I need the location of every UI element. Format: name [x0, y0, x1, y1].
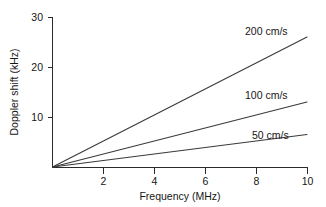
y-tick-label-20: 20: [31, 61, 43, 73]
series-label-200-cm-s: 200 cm/s: [245, 25, 288, 37]
chart-canvas: 30 20 10 2 4 6 8 10 Frequency (MHz) Dopp…: [0, 0, 326, 207]
series-label-100-cm-s: 100 cm/s: [245, 89, 288, 101]
y-tick-label-30: 30: [31, 11, 43, 23]
y-axis-title: Doppler shift (kHz): [8, 49, 20, 136]
x-tick-label-10: 10: [302, 175, 314, 187]
x-tick-label-2: 2: [101, 175, 107, 187]
x-tick-label-4: 4: [152, 175, 158, 187]
doppler-shift-chart: 30 20 10 2 4 6 8 10 Frequency (MHz) Dopp…: [0, 0, 326, 207]
x-axis-title: Frequency (MHz): [139, 190, 220, 202]
y-tick-label-10: 10: [31, 111, 43, 123]
x-tick-label-6: 6: [203, 175, 209, 187]
series-line-200-cm-s: [53, 37, 308, 167]
x-tick-label-8: 8: [254, 175, 260, 187]
series-label-50-cm-s: 50 cm/s: [252, 129, 289, 141]
